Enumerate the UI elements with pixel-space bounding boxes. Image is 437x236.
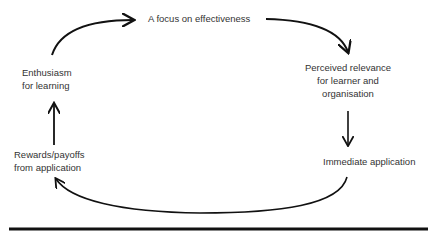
node-rewards-line-1: Rewards/payoffs	[14, 148, 94, 161]
node-relevance: Perceived relevance for learner and orga…	[302, 61, 394, 100]
node-relevance-line-2: for learner and	[302, 74, 394, 87]
arrow-focus-to-relevance	[266, 19, 348, 52]
node-rewards: Rewards/payoffs from application	[14, 148, 94, 174]
node-application-line: Immediate application	[323, 155, 415, 168]
node-rewards-line-2: from application	[14, 161, 94, 174]
diagram-connectors	[0, 0, 437, 236]
node-enthusiasm: Enthusiasm for learning	[22, 66, 82, 92]
arrow-application-to-rewards	[56, 177, 347, 213]
arrow-enthusiasm-to-focus	[52, 20, 133, 55]
node-relevance-line-1: Perceived relevance	[302, 61, 394, 74]
node-enthusiasm-line-2: for learning	[22, 79, 82, 92]
node-application: Immediate application	[323, 155, 415, 168]
node-enthusiasm-line-1: Enthusiasm	[22, 66, 82, 79]
node-focus: A focus on effectiveness	[148, 12, 250, 25]
node-focus-line: A focus on effectiveness	[148, 12, 250, 25]
node-relevance-line-3: organisation	[302, 87, 394, 100]
